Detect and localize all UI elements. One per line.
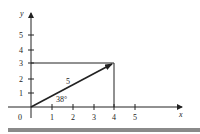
y-tick-label-5: 5 bbox=[19, 31, 23, 40]
x-tick-label-3: 3 bbox=[92, 113, 96, 122]
y-tick-label-1: 1 bbox=[19, 89, 23, 98]
vector-diagram: y x 0 1 2 3 4 5 1 2 3 4 5 5 38° bbox=[0, 0, 200, 134]
x-tick-label-4: 4 bbox=[112, 113, 116, 122]
y-tick-label-3: 3 bbox=[19, 59, 23, 68]
y-tick-label-2: 2 bbox=[19, 75, 23, 84]
x-tick-label-1: 1 bbox=[50, 113, 54, 122]
vector-angle-label: 38° bbox=[56, 95, 67, 104]
vector-arrow bbox=[31, 64, 112, 107]
y-tick-label-4: 4 bbox=[19, 46, 23, 55]
y-axis-label: y bbox=[19, 9, 24, 18]
vector-magnitude-label: 5 bbox=[66, 77, 70, 86]
x-tick-label-5: 5 bbox=[133, 113, 137, 122]
footer-divider-bar bbox=[8, 128, 200, 132]
x-axis-label: x bbox=[178, 110, 183, 119]
origin-label: 0 bbox=[18, 113, 22, 122]
x-tick-label-2: 2 bbox=[71, 113, 75, 122]
